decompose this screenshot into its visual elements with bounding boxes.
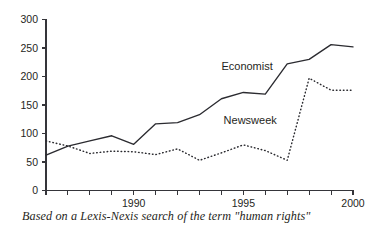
series-line-economist [46,45,353,156]
series-label-economist: Economist [221,60,272,72]
series-label-newsweek: Newsweek [224,114,278,126]
y-axis: 050100150200250300 [20,13,46,196]
line-chart-canvas: 050100150200250300 199019952000 Economis… [0,0,375,231]
chart-figure: 050100150200250300 199019952000 Economis… [0,0,375,231]
y-tick-label: 100 [20,127,38,139]
x-axis: 199019952000 [46,191,365,210]
y-tick-label: 50 [26,156,38,168]
y-tick-label: 150 [20,99,38,111]
x-tick-label: 1990 [122,197,146,209]
y-tick-label: 200 [20,70,38,82]
x-tick-label: 1995 [232,197,256,209]
series-lines [46,45,353,161]
y-tick-label: 0 [32,184,38,196]
y-tick-label: 300 [20,13,38,25]
series-line-newsweek [46,78,353,160]
chart-caption: Based on a Lexis-Nexis search of the ter… [22,209,368,224]
y-tick-label: 250 [20,42,38,54]
x-tick-label: 2000 [341,197,365,209]
